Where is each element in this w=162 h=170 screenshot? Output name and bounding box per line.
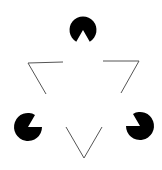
outline-corner-top-right	[103, 61, 139, 93]
pacman-inducer-top	[70, 16, 97, 41]
outline-corner-bottom	[66, 127, 102, 158]
outline-corner-top-left	[28, 62, 63, 94]
pacman-inducer-left	[14, 113, 42, 141]
kanizsa-figure	[0, 0, 162, 170]
pacman-inducer-right	[126, 112, 154, 140]
